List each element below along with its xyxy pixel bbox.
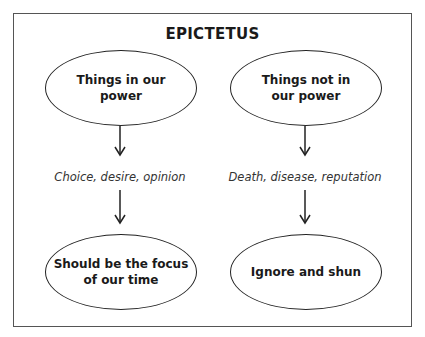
arrows [0, 0, 425, 337]
